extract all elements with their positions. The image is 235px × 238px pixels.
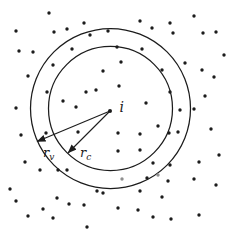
particle-dot	[212, 75, 215, 78]
particle-dot	[101, 191, 104, 194]
particle-dot	[17, 49, 20, 52]
rv-arrow	[37, 111, 110, 142]
particle-dot	[201, 31, 204, 34]
particle-dot	[168, 21, 171, 24]
rv-label-sub: v	[49, 152, 54, 162]
particle-dot	[55, 196, 58, 199]
rv-label: rv	[43, 145, 54, 162]
particle-dot	[31, 50, 34, 53]
particle-dot	[84, 90, 87, 93]
particle-dot	[47, 11, 50, 14]
outer-circle	[31, 29, 191, 189]
particle-dot	[160, 195, 163, 198]
particle-dot	[156, 173, 159, 176]
particle-dot	[168, 90, 171, 93]
particle-dot	[197, 213, 200, 216]
particle-dot	[82, 203, 85, 206]
particle-dot	[138, 132, 141, 135]
particle-dot	[138, 189, 141, 192]
particle-dot	[116, 206, 119, 209]
particle-dot	[136, 208, 139, 211]
particle-dot	[74, 105, 77, 108]
particle-dot	[145, 176, 148, 179]
particle-dot	[168, 163, 171, 166]
particles	[8, 11, 225, 228]
particle-dot	[156, 124, 159, 127]
particle-dot	[192, 14, 195, 17]
particle-dot	[95, 189, 98, 192]
particle-dot	[45, 90, 48, 93]
particle-dot	[70, 47, 73, 50]
particle-dot	[209, 127, 212, 130]
faint-particles	[120, 173, 159, 180]
particle-dot	[120, 177, 123, 180]
center-label: i	[120, 99, 124, 115]
rc-label: rc	[80, 145, 91, 162]
particle-dot	[14, 29, 17, 32]
particle-dot	[117, 84, 120, 87]
particle-dot	[44, 131, 47, 134]
particle-dot	[51, 63, 54, 66]
particle-dot	[23, 160, 26, 163]
particle-dot	[56, 168, 59, 171]
particle-dot	[65, 168, 68, 171]
particle-dot	[106, 29, 109, 32]
particle-dot	[214, 183, 217, 186]
particle-dot	[26, 74, 29, 77]
particle-dot	[8, 187, 11, 190]
particle-dot	[94, 88, 97, 91]
particle-dot	[138, 148, 141, 151]
particle-dot	[140, 47, 143, 50]
particle-dot	[200, 68, 203, 71]
particle-dot	[19, 133, 22, 136]
particle-dot	[192, 177, 195, 180]
particle-dot	[167, 131, 170, 134]
rc-label-sub: c	[86, 152, 91, 162]
particle-dot	[183, 61, 186, 64]
particle-dot	[171, 31, 174, 34]
particle-dot	[166, 179, 169, 182]
particle-dot	[76, 130, 79, 133]
particle-dot	[38, 168, 41, 171]
inner-circle	[49, 47, 173, 171]
particle-dot	[214, 30, 217, 33]
particle-dot	[82, 21, 85, 24]
particle-dot	[169, 217, 172, 220]
particle-dot	[203, 94, 206, 97]
particle-dot	[52, 30, 55, 33]
particle-dot	[41, 207, 44, 210]
rc-arrow	[68, 111, 110, 153]
particle-dot	[119, 60, 122, 63]
particle-dot	[116, 131, 119, 134]
particle-dot	[85, 225, 88, 228]
particle-dot	[144, 101, 147, 104]
particle-dot	[115, 45, 118, 48]
particle-dot	[222, 53, 225, 56]
particle-dot	[150, 26, 153, 29]
figure-canvas: i rv rc	[0, 0, 235, 238]
particle-dot	[101, 69, 104, 72]
particle-dot	[51, 216, 54, 219]
particle-dot	[197, 160, 200, 163]
particle-dot	[61, 99, 64, 102]
particle-dot	[176, 130, 179, 133]
particle-dot	[192, 107, 195, 110]
particle-dot	[138, 19, 141, 22]
particle-dot	[65, 27, 68, 30]
particle-dot	[217, 153, 220, 156]
diagram: i rv rc	[0, 0, 235, 238]
particle-dot	[26, 214, 29, 217]
particle-dot	[160, 68, 163, 71]
particle-dot	[14, 106, 17, 109]
particle-dot	[178, 108, 181, 111]
particle-dot	[116, 149, 119, 152]
particle-dot	[151, 161, 154, 164]
particle-dot	[67, 202, 70, 205]
particle-dot	[14, 199, 17, 202]
particle-dot	[151, 215, 154, 218]
particle-dot	[88, 33, 91, 36]
